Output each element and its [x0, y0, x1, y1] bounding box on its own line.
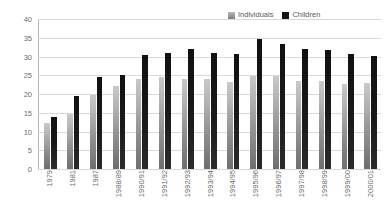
bar-children	[211, 53, 217, 169]
bar-children	[348, 54, 354, 170]
x-axis-tick-label: 2000/01	[366, 170, 375, 197]
bar-individuals	[44, 123, 50, 170]
x-axis-tick-label: 1996/97	[274, 170, 283, 197]
bar-individuals	[250, 76, 256, 169]
x-axis-tick-label: 1990/91	[137, 170, 146, 197]
legend-label-children: Children	[292, 11, 320, 19]
y-axis-tick-label: 0	[0, 165, 36, 174]
x-axis-tick-label: 1991/92	[160, 170, 169, 197]
bar-group	[67, 19, 79, 169]
y-axis-tick-label: 35	[0, 33, 36, 42]
bar-individuals	[159, 77, 165, 169]
bar-chart: Individuals Children 0510152025303540 19…	[0, 0, 387, 220]
bar-group	[136, 19, 148, 169]
x-axis-tick-label: 1998/99	[320, 170, 329, 197]
bar-children	[325, 50, 331, 169]
bar-group	[159, 19, 171, 169]
children-swatch-icon	[282, 12, 289, 19]
bar-children	[280, 44, 286, 169]
plot-area	[38, 19, 381, 169]
bar-individuals	[296, 81, 302, 170]
y-axis-tick-label: 15	[0, 108, 36, 117]
bar-children	[188, 49, 194, 169]
x-axis-tick-label: 1994/95	[228, 170, 237, 197]
bar-group	[296, 19, 308, 169]
bar-group	[319, 19, 331, 169]
bar-children	[165, 53, 171, 169]
bar-individuals	[364, 83, 370, 169]
y-axis-tick-label: 10	[0, 127, 36, 136]
bar-group	[44, 19, 56, 169]
legend-entry-children: Children	[282, 11, 320, 19]
legend-entry-individuals: Individuals	[228, 11, 273, 19]
bar-children	[371, 56, 377, 169]
bar-children	[97, 77, 103, 169]
bar-individuals	[204, 79, 210, 169]
y-axis-tick-label: 5	[0, 146, 36, 155]
bar-individuals	[227, 82, 233, 169]
bar-group	[182, 19, 194, 169]
x-axis-tick-label: 1993/94	[206, 170, 215, 197]
bar-children	[302, 49, 308, 169]
bar-individuals	[136, 79, 142, 169]
x-axis-tick-label: 1992/93	[183, 170, 192, 197]
bar-individuals	[90, 95, 96, 169]
x-axis-tick-label: 1995/96	[251, 170, 260, 197]
bar-individuals	[319, 81, 325, 170]
bar-children	[51, 117, 57, 169]
y-axis-tick-label: 40	[0, 15, 36, 24]
bar-individuals	[67, 114, 73, 170]
y-axis-tick-label: 25	[0, 71, 36, 80]
x-axis-tick-label: 1997/98	[297, 170, 306, 197]
bar-group	[364, 19, 376, 169]
bar-children	[142, 55, 148, 169]
bar-individuals	[182, 79, 188, 169]
x-axis-tick-label: 1999/00	[343, 170, 352, 197]
bar-individuals	[273, 76, 279, 169]
bar-children	[74, 96, 80, 170]
bar-children	[257, 39, 263, 169]
y-axis-tick-label: 20	[0, 90, 36, 99]
bar-group	[273, 19, 285, 169]
y-axis-tick-label: 30	[0, 52, 36, 61]
legend-label-individuals: Individuals	[238, 11, 273, 19]
x-axis-tick-label: 1987	[91, 170, 100, 187]
bar-group	[250, 19, 262, 169]
x-axis-tick-label: 1981	[68, 170, 77, 187]
bar-group	[342, 19, 354, 169]
bar-group	[113, 19, 125, 169]
bar-group	[227, 19, 239, 169]
bar-group	[90, 19, 102, 169]
bar-children	[120, 75, 126, 169]
bar-group	[204, 19, 216, 169]
x-axis: 1979198119871988/891990/911991/921992/93…	[38, 170, 381, 220]
bar-individuals	[342, 84, 348, 169]
bar-children	[234, 54, 240, 170]
x-axis-tick-label: 1988/89	[114, 170, 123, 197]
bar-individuals	[113, 86, 119, 169]
y-axis: 0510152025303540	[0, 19, 36, 169]
individuals-swatch-icon	[228, 12, 235, 19]
x-axis-tick-label: 1979	[45, 170, 54, 187]
